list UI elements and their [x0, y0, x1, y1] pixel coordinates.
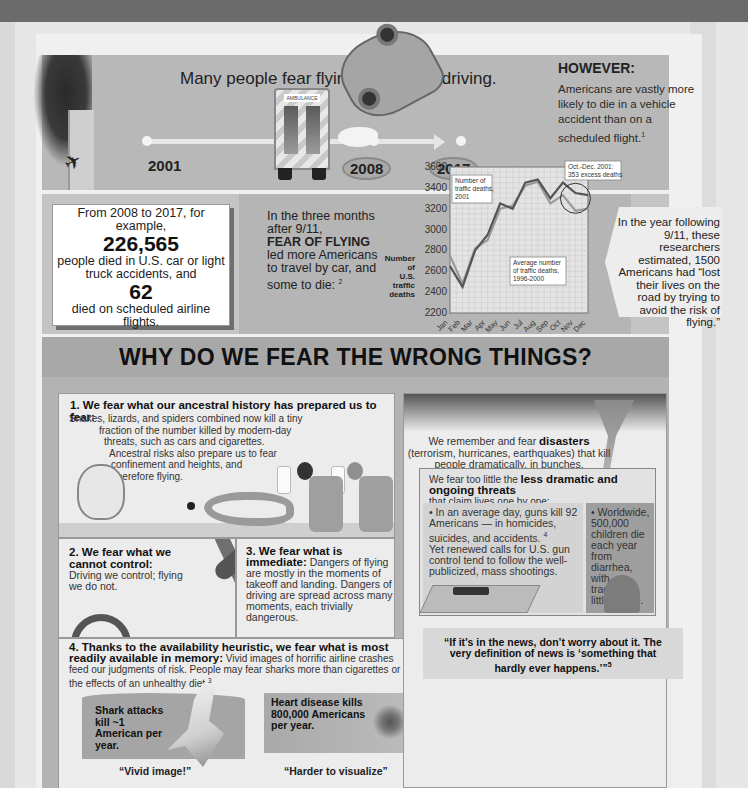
reason-2-panel: 2. We fear what we cannot control: Drivi… [58, 538, 236, 638]
reason-3-panel: 3. We fear what is immediate: Dangers of… [236, 538, 395, 638]
however-body: Americans are vastly more likely to die … [558, 83, 694, 144]
svg-text:Number of: Number of [455, 177, 486, 184]
disasters-emphasis: disasters [539, 435, 590, 447]
heart-caption: “Harder to visualize” [284, 765, 388, 777]
car-deaths-count: 226,565 [53, 233, 229, 255]
mother-child-illustration [604, 575, 640, 613]
fear-emphasis: FEAR OF FLYING [267, 235, 370, 249]
reason-3-content: 3. We fear what is immediate: Dangers of… [246, 546, 394, 623]
footnote-marker: 4 [543, 531, 547, 538]
spider-icon [187, 502, 195, 510]
reason-1-line: fraction of the number killed by modern-… [69, 425, 302, 437]
airplane-window [277, 466, 291, 494]
why-section-header: WHY DO WE FEAR THE WRONG THINGS? [42, 337, 669, 377]
researchers-quote-text: In the year following 9/11, these resear… [615, 216, 720, 329]
shark-illustration [167, 683, 227, 767]
airplane-seat [359, 476, 393, 532]
footnote-marker: 2 [339, 278, 343, 285]
shark-text: Shark attacks kill ~1 American per year. [95, 705, 167, 751]
fear-line1: In the three months after 9/11, [267, 209, 375, 236]
reason-2-title: 2. We fear what we cannot control: [69, 546, 189, 570]
reason-1-panel: 1. We fear what our ancestral history ha… [58, 393, 395, 538]
shark-caption: “Vivid image!” [119, 765, 191, 777]
passenger-illustration [297, 462, 313, 480]
heart-disease-example: Heart disease kills 800,000 Americans pe… [264, 693, 424, 753]
timeline-dot-2017 [456, 136, 466, 146]
ongoing-threats-box: We fear too little the less dramatic and… [419, 468, 656, 616]
stat-air-text: died on scheduled airline flights. [53, 303, 229, 329]
svg-text:Jun: Jun [497, 318, 512, 333]
air-deaths-count: 62 [53, 281, 229, 303]
disasters-post: (terrorism, hurricanes, earthquakes) tha… [408, 447, 611, 471]
steering-wheel-icon [71, 614, 131, 638]
svg-text:1996-2000: 1996-2000 [513, 275, 544, 282]
reason-3-text: Dangers of flying are mostly in the mome… [246, 556, 392, 623]
reason-2-text: Driving we control; flying we do not. [69, 570, 189, 592]
timeline-title: Many people fear flying more than drivin… [180, 69, 497, 89]
news-quote-box: “If it’s in the news, don’t worry about … [423, 628, 683, 679]
year-2001: 2001 [148, 157, 181, 174]
stat-box: From 2008 to 2017, for example, 226,565 … [52, 204, 230, 326]
disasters-text: We remember and fear disasters (terroris… [404, 436, 614, 471]
ambulance-sign: AMBULANCE [284, 94, 320, 102]
svg-text:3200: 3200 [425, 203, 448, 214]
svg-text:3000: 3000 [425, 224, 448, 235]
heart-disease-text: Heart disease kills 800,000 Americans pe… [271, 697, 366, 732]
footnote-marker: 1 [641, 131, 645, 138]
svg-text:traffic deaths,: traffic deaths, [455, 185, 494, 192]
news-quote-text: “If it’s in the news, don’t worry about … [444, 636, 662, 674]
footnote-marker: 5 [608, 661, 612, 668]
disasters-panel: We remember and fear disasters (terroris… [403, 393, 667, 788]
svg-text:3600: 3600 [425, 161, 448, 172]
passenger-illustration [347, 462, 363, 480]
fear-line2: led more Americans to travel by car, and… [267, 248, 377, 292]
arrow-right-icon [434, 134, 445, 150]
svg-text:2200: 2200 [425, 307, 448, 318]
news-quote: “If it’s in the news, don’t worry about … [433, 637, 673, 674]
ambulance-wheel [278, 168, 292, 180]
ambulance-illustration: AMBULANCE [274, 88, 330, 170]
svg-text:Average number: Average number [513, 259, 562, 267]
stat-car-text: people died in U.S. car or light truck a… [53, 255, 229, 281]
scared-person-illustration [77, 464, 125, 520]
disasters-pre: We remember and fear [428, 435, 536, 447]
svg-text:2400: 2400 [425, 286, 448, 297]
reason-1-line: Snakes, lizards, and spiders combined no… [69, 413, 302, 425]
ambulance-door-left [284, 106, 298, 154]
stat-intro: From 2008 to 2017, for example, [53, 207, 229, 233]
however-text: Americans are vastly more likely to die … [558, 82, 698, 146]
svg-text:2800: 2800 [425, 244, 448, 255]
shark-example: Shark attacks kill ~1 American per year. [82, 693, 245, 759]
reason-1-line: threats, such as cars and cigarettes. [69, 436, 302, 448]
section-title: WHY DO WE FEAR THE WRONG THINGS? [42, 337, 669, 377]
researchers-quote: In the year following 9/11, these resear… [605, 194, 748, 334]
guns-continuation: Yet renewed calls for U.S. gun control t… [429, 543, 570, 577]
guns-stat: • In an average day, guns kill 92 Americ… [429, 506, 577, 544]
however-callout: HOWEVER: Americans are vastly more likel… [558, 60, 698, 146]
however-title: HOWEVER: [558, 60, 698, 76]
ambulance-wheel [312, 168, 326, 180]
snake-illustration [204, 492, 294, 526]
top-banner [0, 0, 748, 22]
svg-text:3400: 3400 [425, 182, 448, 193]
svg-text:of traffic deaths,: of traffic deaths, [513, 267, 559, 274]
guns-text: • In an average day, guns kill 92 Americ… [429, 507, 579, 577]
reason-1-line: Ancestral risks also prepare us to fear [69, 448, 302, 460]
tire [354, 84, 384, 114]
statistics-row: From 2008 to 2017, for example, 226,565 … [42, 194, 669, 334]
floor-illustration [59, 523, 394, 537]
svg-text:353 excess deaths: 353 excess deaths [568, 171, 623, 178]
svg-text:Oct.-Dec. 2001:: Oct.-Dec. 2001: [568, 163, 614, 170]
svg-text:2001: 2001 [455, 193, 470, 200]
timeline-dot-2001 [142, 136, 152, 146]
spill-illustration [338, 127, 378, 147]
reason-2-content: 2. We fear what we cannot control: Drivi… [69, 546, 189, 592]
gun-icon [453, 587, 489, 595]
year-2008: 2008 [342, 157, 391, 180]
airplane-seat [309, 476, 343, 532]
svg-text:Dec: Dec [572, 318, 588, 334]
footnote-marker: 3 [208, 677, 212, 684]
reason-4-text-block: 4. Thanks to the availability heuristic,… [69, 642, 409, 689]
guns-example: • In an average day, guns kill 92 Americ… [423, 503, 583, 613]
svg-text:2600: 2600 [425, 265, 448, 276]
